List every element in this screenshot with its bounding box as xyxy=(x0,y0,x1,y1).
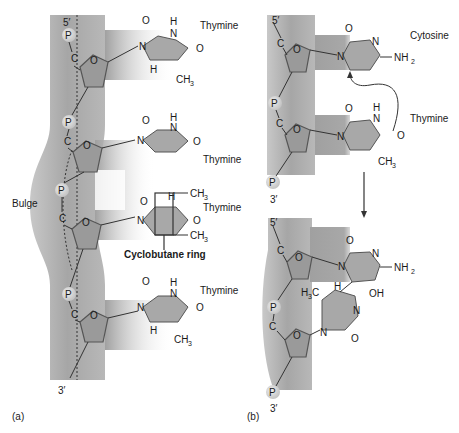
svg-text:N: N xyxy=(372,36,379,47)
panel-a-label: (a) xyxy=(12,411,24,422)
base-label: Cytosine xyxy=(410,30,449,41)
base-label: Thymine xyxy=(200,285,239,296)
svg-text:O: O xyxy=(142,15,150,26)
phosphate-icon: P xyxy=(62,287,76,301)
svg-text:P: P xyxy=(269,387,276,398)
svg-text:O: O xyxy=(196,43,204,54)
svg-text:N: N xyxy=(337,131,344,142)
svg-text:C: C xyxy=(64,136,71,147)
svg-text:P: P xyxy=(270,302,277,313)
svg-text:N: N xyxy=(170,122,177,133)
svg-text:N: N xyxy=(137,215,144,226)
base-label: Thymine xyxy=(200,20,239,31)
svg-text:O: O xyxy=(90,310,98,321)
svg-text:O: O xyxy=(90,55,98,66)
svg-text:2: 2 xyxy=(411,58,415,65)
phosphate-icon: P xyxy=(267,300,281,314)
svg-text:O: O xyxy=(345,23,353,34)
svg-text:3: 3 xyxy=(190,80,194,87)
svg-text:O: O xyxy=(345,103,353,114)
svg-text:N: N xyxy=(170,288,177,299)
panel-b-bottom: 5′ 3′ O O C C P P N O N NH2 OH H xyxy=(247,217,415,422)
svg-text:3: 3 xyxy=(188,340,192,347)
svg-text:3: 3 xyxy=(204,194,208,201)
svg-text:5′: 5′ xyxy=(270,217,278,228)
svg-text:N: N xyxy=(372,248,379,259)
svg-text:C: C xyxy=(269,321,276,332)
svg-text:O: O xyxy=(82,217,90,228)
svg-text:H: H xyxy=(170,277,177,288)
svg-text:O: O xyxy=(293,124,301,135)
svg-text:N: N xyxy=(137,302,144,313)
svg-text:3: 3 xyxy=(204,236,208,243)
svg-text:H: H xyxy=(150,325,157,336)
svg-text:O: O xyxy=(83,140,91,151)
svg-text:C: C xyxy=(59,213,66,224)
svg-text:O: O xyxy=(142,276,150,287)
svg-text:C: C xyxy=(277,38,284,49)
svg-text:O: O xyxy=(351,333,359,344)
cytosine-adduct: N O N NH2 OH H xyxy=(334,235,415,299)
svg-text:N: N xyxy=(137,135,144,146)
panel-a: 5′ 3′ Bulge P P P P C C C C O O O O xyxy=(12,15,242,422)
svg-text:O: O xyxy=(293,330,301,341)
phosphate-icon: P xyxy=(266,175,280,189)
svg-text:P: P xyxy=(65,289,72,300)
bulge-label: Bulge xyxy=(12,198,38,209)
svg-text:OH: OH xyxy=(369,288,384,299)
svg-text:O: O xyxy=(397,130,405,141)
svg-text:3′: 3′ xyxy=(270,403,278,414)
svg-text:CH: CH xyxy=(190,188,204,199)
svg-text:P: P xyxy=(65,30,72,41)
svg-text:N: N xyxy=(338,261,345,272)
svg-text:P: P xyxy=(65,117,72,128)
svg-text:P: P xyxy=(58,185,65,196)
dna-damage-diagram: 5′ 3′ Bulge P P P P C C C C O O O O xyxy=(0,0,459,433)
svg-text:N: N xyxy=(373,113,380,124)
svg-text:C: C xyxy=(71,53,78,64)
cytosine-base: N O N NH2 Cytosine xyxy=(337,23,449,70)
svg-text:N: N xyxy=(139,41,146,52)
svg-text:CH: CH xyxy=(176,74,190,85)
svg-text:N: N xyxy=(320,327,327,338)
svg-text:P: P xyxy=(271,98,278,109)
five-prime-label: 5′ xyxy=(63,17,71,28)
svg-text:5′: 5′ xyxy=(272,15,280,26)
svg-text:O: O xyxy=(196,302,204,313)
svg-text:O: O xyxy=(140,196,148,207)
phosphate-icon: P xyxy=(62,115,76,129)
svg-text:O: O xyxy=(193,136,201,147)
phosphate-icon: P xyxy=(268,96,282,110)
svg-text:O: O xyxy=(295,252,303,263)
svg-text:N: N xyxy=(170,28,177,39)
svg-text:CH: CH xyxy=(190,230,204,241)
svg-text:C: C xyxy=(71,309,78,320)
svg-text:C: C xyxy=(276,118,283,129)
three-prime-label: 3′ xyxy=(58,385,66,396)
svg-text:N: N xyxy=(353,305,360,316)
cyclobutane-label: Cyclobutane ring xyxy=(124,249,206,260)
svg-text:O: O xyxy=(193,215,201,226)
svg-text:NH: NH xyxy=(394,262,408,273)
panel-b-label: (b) xyxy=(247,411,259,422)
svg-text:O: O xyxy=(142,115,150,126)
svg-text:NH: NH xyxy=(394,52,408,63)
svg-text:CH: CH xyxy=(174,334,188,345)
svg-text:3: 3 xyxy=(392,162,396,169)
phosphate-icon: P xyxy=(55,183,69,197)
phosphate-icon: P xyxy=(62,28,76,42)
svg-text:P: P xyxy=(269,177,276,188)
svg-text:C: C xyxy=(312,287,319,298)
svg-text:H: H xyxy=(170,16,177,27)
svg-text:H: H xyxy=(150,64,157,75)
svg-text:2: 2 xyxy=(411,268,415,275)
svg-text:O: O xyxy=(346,235,354,246)
base-label: Thymine xyxy=(203,154,242,165)
thymine-base: N O H N O CH3 Thymine xyxy=(337,102,449,169)
svg-text:C: C xyxy=(277,245,284,256)
svg-text:H: H xyxy=(373,102,380,113)
base-label: Thymine xyxy=(203,202,242,213)
svg-text:O: O xyxy=(293,44,301,55)
svg-text:N: N xyxy=(337,51,344,62)
svg-text:CH: CH xyxy=(378,156,392,167)
